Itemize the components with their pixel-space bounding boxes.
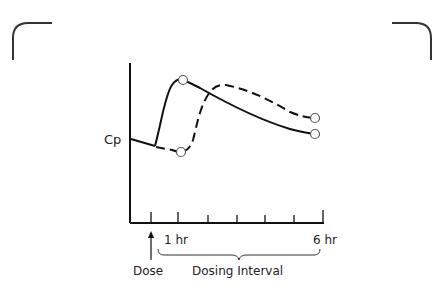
dashed-trough-marker: [177, 148, 186, 157]
dose-label: Dose: [133, 264, 163, 278]
dashed-curve: [156, 85, 315, 152]
dashed-end-marker: [311, 114, 320, 123]
corner-bracket-right: [392, 23, 431, 60]
tick-label-6hr: 6 hr: [313, 233, 337, 247]
pre-dose-line: [131, 139, 155, 146]
dose-arrow: [148, 231, 154, 260]
dosing-interval-brace: [158, 249, 320, 260]
pharmacokinetic-diagram: Cp 1 hr 6 hr Dose Dosing Interval: [0, 0, 445, 303]
solid-end-marker: [311, 130, 320, 139]
x-axis-ticks: [151, 210, 323, 223]
corner-bracket-left: [13, 23, 52, 60]
y-axis-label: Cp: [104, 132, 121, 147]
dosing-interval-label: Dosing Interval: [192, 264, 283, 278]
tick-label-1hr: 1 hr: [164, 233, 188, 247]
solid-peak-marker: [179, 76, 188, 85]
